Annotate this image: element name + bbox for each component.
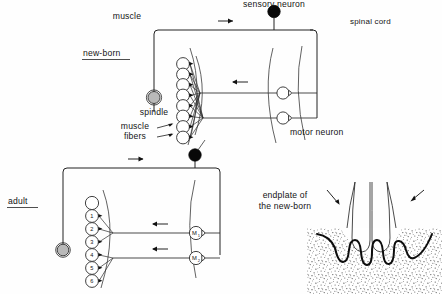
neural-reflex-diagram: new-born muscle sensory neuron spinal co… xyxy=(0,0,442,294)
muscle-boundary-arc-adult xyxy=(101,190,110,288)
terminal-sheath-left xyxy=(347,182,355,228)
label-spinal-cord: spinal cord xyxy=(350,17,391,26)
muscle-fiber-number: 4 xyxy=(90,252,93,258)
muscle-fiber-column-newborn xyxy=(177,58,190,144)
muscle-fiber-column-adult: 1 2 3 4 5 xyxy=(86,210,99,288)
arrow-efferent-2-adult xyxy=(152,246,168,251)
panel-endplate: endplate of the new-born xyxy=(259,182,442,294)
sensory-neuron-dendrite-adult xyxy=(198,140,205,150)
label-muscle-newborn: muscle xyxy=(113,11,141,21)
label-muscle-fibers-line2: fibers xyxy=(124,131,146,141)
motor-neuron-1-newborn xyxy=(277,87,292,99)
spinal-cord-loop-adult xyxy=(216,168,220,255)
spinal-cord-loop-newborn xyxy=(313,30,317,118)
spindle-capsule-adult xyxy=(57,244,69,256)
muscle-fiber-number: 6 xyxy=(90,278,93,284)
figure-root: new-born muscle sensory neuron spinal co… xyxy=(0,0,442,294)
label-muscle-fibers-line1: muscle xyxy=(121,121,149,131)
muscle-fiber-numbered: 4 xyxy=(86,249,99,262)
sensory-neuron-soma-adult xyxy=(189,149,201,161)
muscle-fiber-unnumbered-adult xyxy=(85,196,98,209)
muscle-fiber-number: 5 xyxy=(90,265,93,271)
arrow-afferent-newborn xyxy=(218,18,233,23)
motor-neuron-m1-adult: M 1 xyxy=(189,226,205,239)
motor-neuron-2-newborn xyxy=(277,112,292,124)
label-sensory-neuron: sensory neuron xyxy=(243,0,305,9)
motor-unit-branches-adult xyxy=(99,216,113,281)
label-spindle: spindle xyxy=(140,107,169,117)
motor-neuron-m2-label: M xyxy=(192,255,197,261)
label-motor-neuron: motor neuron xyxy=(290,127,344,137)
arrow-endplate-right xyxy=(410,190,424,201)
spinal-cord-arc-left-newborn xyxy=(268,48,276,143)
arrow-efferent-1-adult xyxy=(152,221,168,226)
muscle-fiber xyxy=(177,131,190,144)
arrow-efferent-newborn xyxy=(232,79,248,84)
muscle-fiber-number: 2 xyxy=(90,226,93,232)
panel-adult: adult xyxy=(7,140,220,288)
muscle-fiber-numbered: 6 xyxy=(86,275,99,288)
nerve-terminals-adult xyxy=(98,214,102,283)
muscle-fiber-numbered: 3 xyxy=(86,236,99,249)
spindle-capsule-newborn xyxy=(148,92,160,104)
panel-newborn: new-born muscle sensory neuron spinal co… xyxy=(82,0,391,145)
motor-neuron-m1-label: M xyxy=(192,230,197,236)
muscle-fiber-numbered: 1 xyxy=(86,210,99,223)
muscle-fiber-number: 3 xyxy=(90,239,93,245)
label-endplate-line1: endplate of xyxy=(263,190,308,200)
arrow-afferent-adult xyxy=(128,156,144,161)
panel-tag-newborn: new-born xyxy=(83,48,120,58)
arrow-endplate-left xyxy=(327,190,340,205)
motor-neuron-m2-adult: M 2 xyxy=(189,251,205,264)
leader-arrows-muscle-fibers xyxy=(157,124,173,137)
terminal-sheath-right xyxy=(387,182,396,228)
label-endplate-line2: the new-born xyxy=(259,201,312,211)
muscle-fiber-numbered: 5 xyxy=(86,262,99,275)
muscle-fiber-number: 1 xyxy=(90,213,93,219)
panel-tag-adult: adult xyxy=(8,196,28,206)
muscle-fiber-numbered: 2 xyxy=(86,223,99,236)
